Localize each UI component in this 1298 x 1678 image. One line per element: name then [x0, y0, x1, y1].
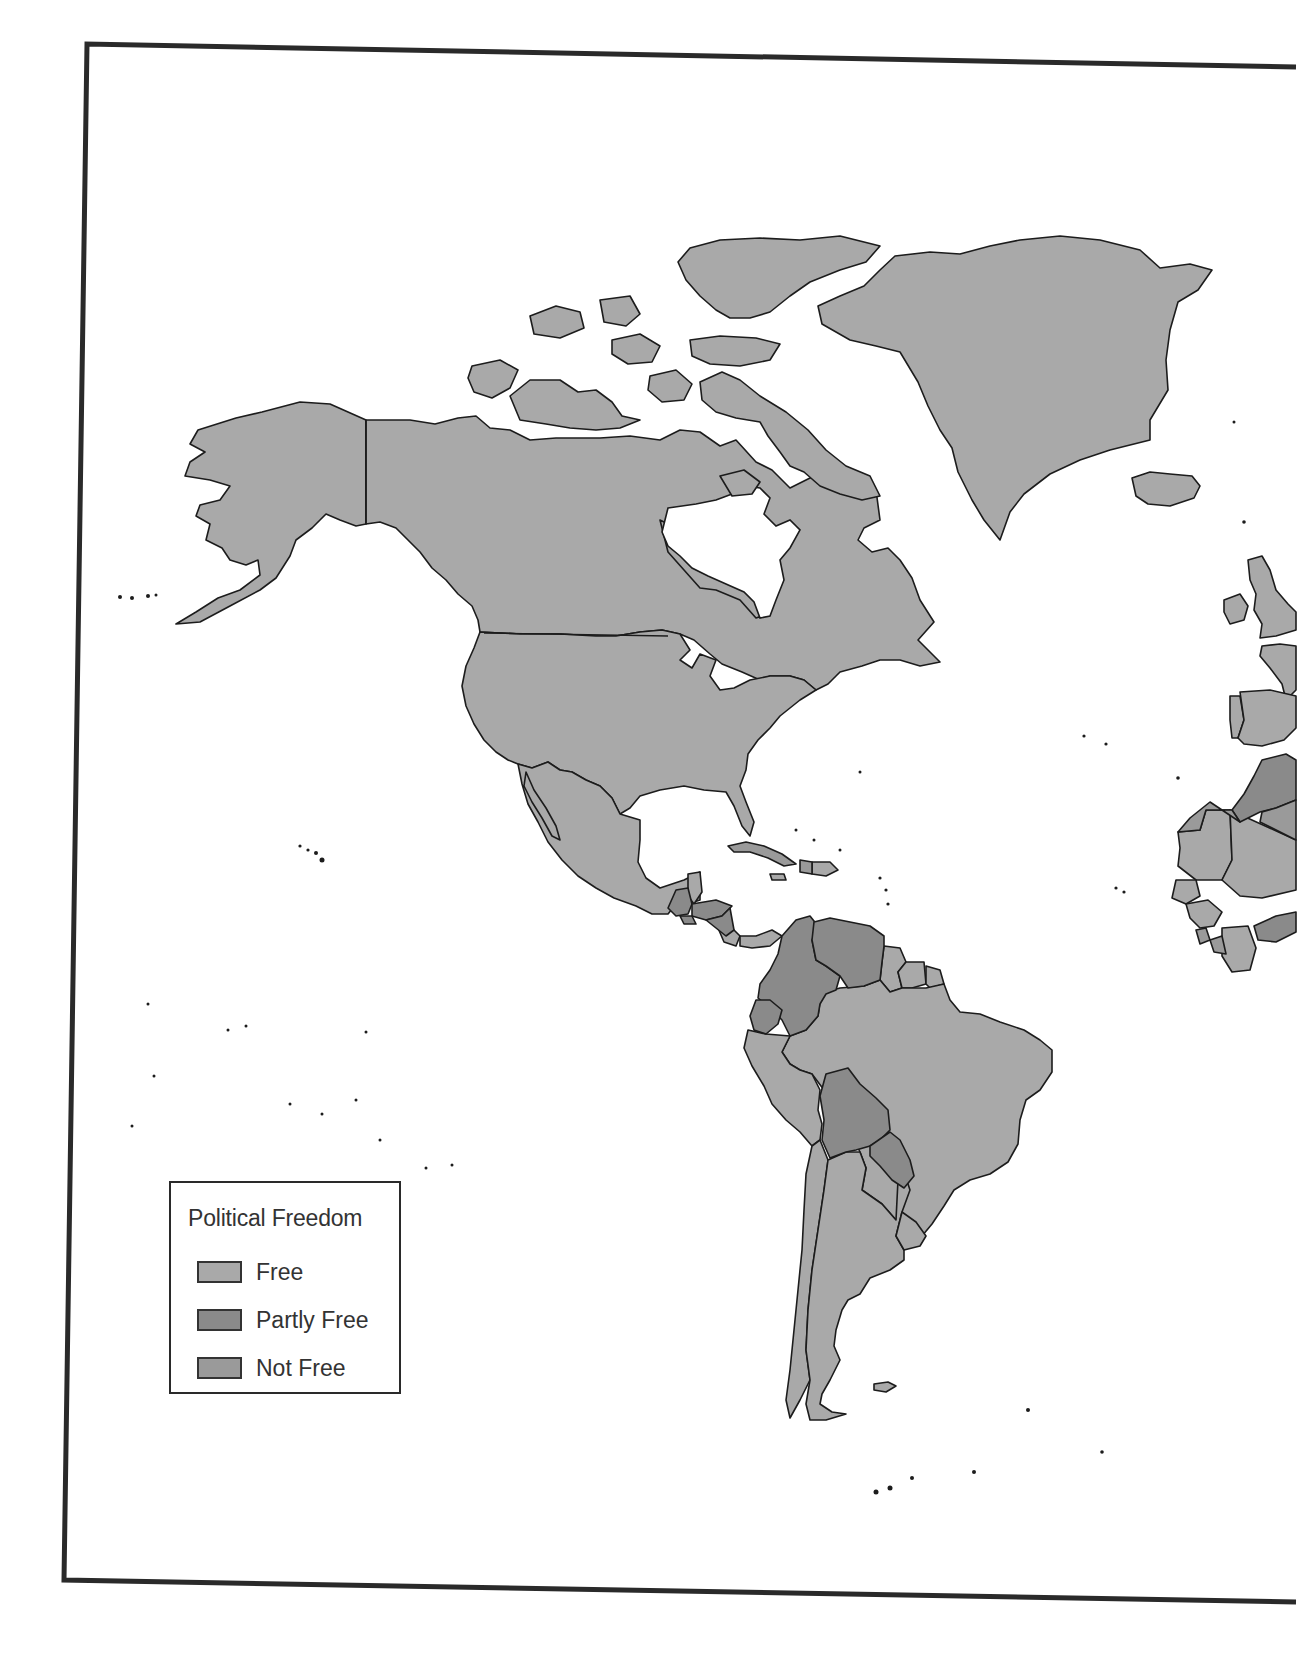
region-sierra-leone [1196, 928, 1210, 944]
region-senegal [1172, 880, 1200, 904]
region-mauritania [1178, 810, 1232, 880]
region-victoria-island [510, 380, 640, 430]
region-banks-island [468, 360, 518, 398]
legend-item-free: Free [197, 1261, 303, 1283]
region-suriname [898, 962, 926, 988]
legend: Political Freedom Free Partly Free Not F… [169, 1181, 401, 1394]
region-panama [740, 930, 782, 948]
legend-swatch-free [197, 1261, 242, 1283]
region-arctic-islets-4 [648, 370, 692, 402]
region-falkland-islands [874, 1382, 896, 1392]
region-ecuador [750, 1000, 782, 1034]
legend-swatch-partly-free [197, 1309, 242, 1331]
region-guinea [1186, 900, 1222, 928]
political-freedom-map [0, 0, 1298, 1678]
region-arctic-islets-1 [530, 306, 584, 338]
region-cuba [728, 842, 796, 866]
region-iceland [1132, 472, 1200, 506]
region-united-kingdom [1248, 556, 1296, 638]
region-haiti [800, 860, 812, 874]
region-spain [1238, 690, 1296, 746]
region-arctic-islets-2 [600, 296, 640, 326]
region-cote-divoire [1222, 926, 1256, 972]
legend-title: Political Freedom [188, 1205, 362, 1232]
legend-label-not-free: Not Free [256, 1355, 345, 1382]
region-ireland [1224, 594, 1248, 624]
region-devon-island [690, 336, 780, 366]
legend-item-partly-free: Partly Free [197, 1309, 368, 1331]
region-alaska [176, 402, 366, 624]
region-jamaica [770, 874, 786, 880]
legend-label-free: Free [256, 1259, 303, 1286]
legend-item-not-free: Not Free [197, 1357, 345, 1379]
region-burkina-faso [1254, 912, 1296, 942]
region-dominican-republic [812, 862, 838, 876]
legend-label-partly-free: Partly Free [256, 1307, 368, 1334]
region-arctic-islets-3 [612, 334, 660, 364]
legend-swatch-not-free [197, 1357, 242, 1379]
